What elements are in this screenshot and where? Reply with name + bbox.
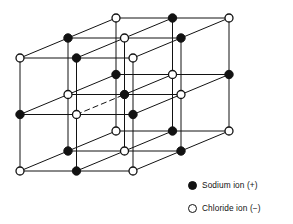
- lattice-ions: [16, 14, 233, 175]
- lattice-bond: [133, 151, 181, 171]
- lattice-drawing: [0, 0, 293, 224]
- chloride-ion: [177, 91, 185, 99]
- chloride-ion: [169, 71, 177, 79]
- open-circle-icon: [188, 204, 197, 213]
- chloride-ion: [112, 14, 120, 22]
- lattice-bond: [77, 151, 125, 171]
- sodium-ion: [16, 110, 24, 118]
- lattice-bond: [77, 95, 125, 115]
- sodium-ion: [112, 70, 120, 78]
- chloride-ion: [129, 54, 137, 62]
- sodium-ion: [177, 34, 185, 42]
- sodium-ion: [72, 167, 80, 175]
- chloride-ion: [129, 167, 137, 175]
- sodium-ion: [168, 14, 176, 22]
- lattice-bond: [181, 131, 229, 151]
- filled-circle-icon: [188, 181, 197, 190]
- lattice-bond: [125, 131, 173, 151]
- sodium-ion: [64, 147, 72, 155]
- legend-label-chloride: Chloride ion (−): [202, 203, 261, 213]
- chloride-ion: [64, 91, 72, 99]
- sodium-ion: [64, 34, 72, 42]
- sodium-ion: [177, 147, 185, 155]
- chloride-ion: [16, 54, 24, 62]
- lattice-bond: [68, 75, 116, 95]
- lattice-bond: [181, 75, 229, 95]
- chloride-ion: [112, 127, 120, 135]
- chloride-ion: [16, 167, 24, 175]
- lattice-bond: [20, 38, 68, 58]
- legend-item-sodium: Sodium ion (+): [188, 180, 258, 190]
- chloride-ion: [121, 34, 129, 42]
- chloride-ion: [121, 147, 129, 155]
- sodium-ion: [120, 90, 128, 98]
- lattice-bond: [125, 75, 173, 95]
- lattice-bond: [20, 95, 68, 115]
- sodium-ion: [168, 127, 176, 135]
- lattice-bond: [20, 151, 68, 171]
- lattice-bond: [133, 95, 181, 115]
- lattice-bond: [68, 131, 116, 151]
- sodium-ion: [225, 70, 233, 78]
- sodium-ion: [72, 54, 80, 62]
- lattice-bond: [68, 18, 116, 38]
- lattice-bond: [181, 18, 229, 38]
- legend-item-chloride: Chloride ion (−): [188, 203, 261, 213]
- lattice-bond: [125, 18, 173, 38]
- legend-label-sodium: Sodium ion (+): [202, 180, 258, 190]
- nacl-lattice-figure: Sodium ion (+) Chloride ion (−): [0, 0, 293, 224]
- chloride-ion: [225, 127, 233, 135]
- chloride-ion: [73, 111, 81, 119]
- lattice-bond: [133, 38, 181, 58]
- sodium-ion: [129, 110, 137, 118]
- lattice-bond: [77, 38, 125, 58]
- chloride-ion: [225, 14, 233, 22]
